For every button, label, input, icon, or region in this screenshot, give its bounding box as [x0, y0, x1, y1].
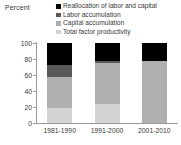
- y-axis-tick-label: 100: [12, 40, 32, 47]
- bar-segment[interactable]: [47, 77, 72, 108]
- bar-segment[interactable]: [142, 43, 167, 61]
- legend-item[interactable]: Capital accumulation: [56, 19, 181, 28]
- y-axis-tick-mark: [33, 107, 36, 108]
- legend-item-label: Capital accumulation: [63, 19, 124, 28]
- y-axis-tick-mark: [33, 123, 36, 124]
- bar-segment[interactable]: [47, 65, 72, 77]
- legend-item-label: Reallocation of labor and capital: [63, 2, 157, 11]
- y-axis-tick-label: 60: [12, 72, 32, 79]
- legend-item[interactable]: Total factor productivity: [56, 28, 181, 37]
- x-axis-line: [36, 123, 178, 124]
- chart-legend: Reallocation of labor and capitalLabor a…: [56, 2, 181, 36]
- legend-swatch-icon: [56, 4, 61, 9]
- x-axis-tick-label: 2001-2010: [128, 126, 180, 135]
- legend-swatch-icon: [56, 13, 61, 18]
- legend-swatch-icon: [56, 30, 61, 35]
- legend-item-label: Total factor productivity: [63, 28, 130, 37]
- x-axis-tick-labels: 1981-19901991-20002001-2010: [36, 126, 178, 140]
- stacked-bar-chart: Percent Reallocation of labor and capita…: [0, 0, 181, 145]
- bar-stack[interactable]: [142, 43, 167, 123]
- y-axis-tick-label: 0: [12, 120, 32, 127]
- bar-segment[interactable]: [47, 43, 72, 65]
- bar-segment[interactable]: [95, 43, 120, 61]
- bar-stack[interactable]: [47, 43, 72, 123]
- legend-swatch-icon: [56, 21, 61, 26]
- x-axis-tick-label: 1991-2000: [81, 126, 133, 135]
- y-axis-tick-mark: [33, 43, 36, 44]
- legend-item-label: Labor accumulation: [63, 11, 121, 20]
- y-axis-tick-label: 40: [12, 88, 32, 95]
- bar-stack[interactable]: [95, 43, 120, 123]
- bar-segment[interactable]: [95, 63, 120, 104]
- legend-item[interactable]: Labor accumulation: [56, 11, 181, 20]
- y-axis-tick-mark: [33, 75, 36, 76]
- y-axis-tick-mark: [33, 59, 36, 60]
- y-axis-tick-labels: 100806040200: [12, 0, 32, 145]
- x-axis-tick-label: 1981-1990: [34, 126, 86, 135]
- plot-area: [36, 43, 178, 123]
- y-axis-tick-label: 20: [12, 104, 32, 111]
- y-axis-tick-mark: [33, 91, 36, 92]
- bar-segment[interactable]: [142, 61, 167, 123]
- bar-segment[interactable]: [95, 104, 120, 123]
- y-axis-tick-label: 80: [12, 56, 32, 63]
- bar-segment[interactable]: [47, 108, 72, 123]
- legend-item[interactable]: Reallocation of labor and capital: [56, 2, 181, 11]
